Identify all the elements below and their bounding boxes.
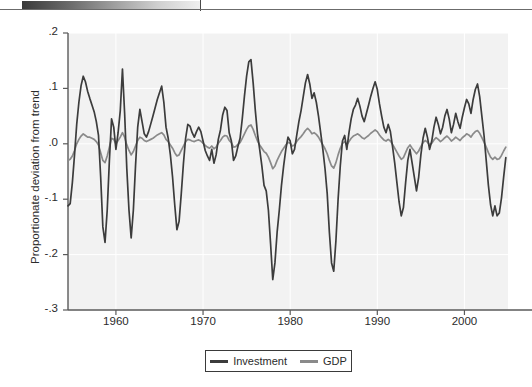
- chart-legend: Investment GDP: [205, 350, 352, 372]
- x-tick-label: 2000: [440, 315, 488, 327]
- series-investment: [68, 60, 506, 280]
- legend-label-investment: Investment: [233, 355, 287, 367]
- y-tick-label-text: .2: [32, 25, 58, 37]
- x-tick-label: 1970: [179, 315, 227, 327]
- x-tick-label: 1960: [92, 315, 140, 327]
- chart-figure: Proportionate deviation from trend .2.1.…: [0, 11, 532, 387]
- legend-entry-investment: Investment: [210, 355, 287, 367]
- header-rule: [0, 9, 532, 10]
- legend-entry-gdp: GDP: [300, 355, 347, 367]
- y-tick-label-text: -.1: [32, 191, 58, 203]
- y-tick-label-text: -.2: [32, 247, 58, 259]
- legend-label-gdp: GDP: [323, 355, 347, 367]
- gradient-bar: [22, 1, 200, 9]
- y-tick-label-text: .0: [32, 136, 58, 148]
- y-tick-label-text: -.3: [32, 302, 58, 314]
- x-tick-label: 1990: [353, 315, 401, 327]
- axis-lines: [68, 33, 532, 310]
- legend-swatch-investment: [210, 360, 228, 363]
- decorative-header-strip: [0, 0, 532, 11]
- legend-swatch-gdp: [300, 360, 318, 363]
- y-tick-label-text: .1: [32, 80, 58, 92]
- x-tick-label: 1980: [266, 315, 314, 327]
- gridlines: [68, 33, 508, 310]
- chart-canvas: [0, 11, 532, 387]
